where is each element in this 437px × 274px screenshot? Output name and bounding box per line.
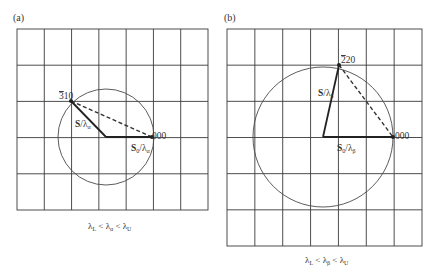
ewald-sphere-diagram: (a) 310 000 S/λα S0/λα λL < λα < λU (b) …	[0, 0, 437, 274]
origin-index-b: 000	[395, 131, 410, 141]
panel-b: (b) 220 000 S/λβ S0/λβ λL < λβ < λU	[224, 12, 422, 266]
panel-b-label: (b)	[224, 12, 236, 24]
reflection-index-a: 310	[59, 91, 74, 101]
wavelength-condition-a: λL < λα < λU	[88, 221, 132, 232]
reciprocal-lattice-grid-a	[17, 29, 208, 210]
incident-vector-label-a: S0/λα	[131, 143, 151, 154]
panel-a: (a) 310 000 S/λα S0/λα λL < λα < λU	[13, 12, 208, 232]
reflection-index-b: 220	[341, 55, 356, 65]
wavelength-condition-b: λL < λβ < λU	[305, 255, 349, 266]
scattered-vector-label-b: S/λβ	[318, 88, 334, 99]
grid-frame	[17, 29, 208, 210]
incident-vector-label-b: S0/λβ	[337, 143, 356, 154]
panel-a-label: (a)	[13, 12, 24, 24]
origin-index-a: 000	[152, 131, 167, 141]
